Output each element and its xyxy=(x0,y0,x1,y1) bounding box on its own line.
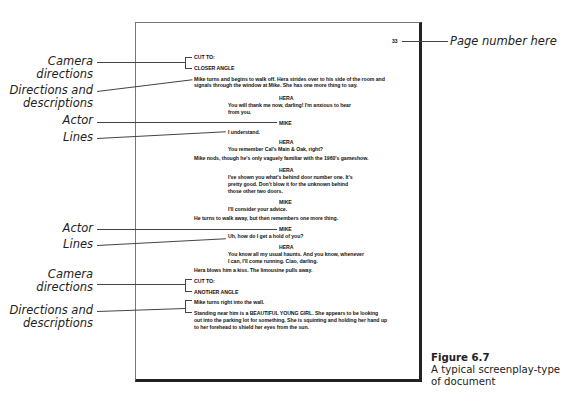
annotation-directions: Directions and descriptions xyxy=(3,304,93,330)
bracket-tick xyxy=(185,312,192,313)
direction-line: Mike turns right into the wall. xyxy=(194,299,264,305)
bracket xyxy=(185,57,186,68)
bracket xyxy=(185,300,186,312)
annotation-lines: Lines xyxy=(3,238,93,251)
actor-name: HERA xyxy=(279,244,294,250)
dialogue-line: those other two doors. xyxy=(228,188,283,194)
bracket-tick xyxy=(185,57,192,58)
dialogue-line: I'll consider your advice. xyxy=(228,206,287,212)
bracket xyxy=(185,279,186,291)
bracket-tick xyxy=(185,291,192,292)
leader-line xyxy=(402,41,448,42)
dialogue-line: You know all my usual haunts. And you kn… xyxy=(228,251,364,257)
actor-name: HERA xyxy=(279,95,294,101)
dialogue-line: Uh, how do I get a hold of you? xyxy=(228,233,303,239)
dialogue-line: I can, I'll come running. Ciao, darling. xyxy=(228,258,318,264)
direction-line: out into the parking lot for something. … xyxy=(194,317,387,323)
bracket-tick xyxy=(185,279,192,280)
actor-name: MIKE xyxy=(279,226,292,232)
camera-direction-cut: CUT TO: xyxy=(194,278,215,284)
annotation-actor: Actor xyxy=(3,114,93,127)
leader-line xyxy=(97,284,185,285)
direction-line: Standing near him is a BEAUTIFUL YOUNG G… xyxy=(194,310,378,316)
page-number: 33 xyxy=(392,38,397,44)
annotation-camera-directions: Camera directions xyxy=(3,55,93,81)
annotation-lines: Lines xyxy=(3,131,93,144)
leader-line xyxy=(97,62,185,63)
actor-name: MIKE xyxy=(279,120,292,126)
figure-number: Figure 6.7 xyxy=(431,352,560,364)
bracket-tick xyxy=(185,300,192,301)
figure-caption: Figure 6.7 A typical screenplay-type of … xyxy=(431,352,560,388)
bracket-tick xyxy=(185,68,192,69)
camera-direction-angle: CLOSER ANGLE xyxy=(194,65,234,71)
dialogue-line: from you. xyxy=(228,109,251,115)
dialogue-line: You will thank me now, darling! I'm anxi… xyxy=(228,102,351,108)
annotation-camera-directions: Camera directions xyxy=(3,268,93,294)
annotation-actor: Actor xyxy=(3,222,93,235)
dialogue-line: I've shown you what's behind door number… xyxy=(228,174,353,180)
annotation-page-number: Page number here xyxy=(450,34,557,48)
camera-direction-cut: CUT TO: xyxy=(194,54,215,60)
leader-line xyxy=(97,229,277,230)
dialogue-line: I understand. xyxy=(228,129,260,135)
actor-name: HERA xyxy=(279,139,294,145)
direction-line: Hera blows him a kiss. The limousine pul… xyxy=(194,267,312,273)
direction-line: He turns to walk away, but then remember… xyxy=(194,215,338,221)
direction-line: Mike nods, though he's only vaguely fami… xyxy=(194,155,368,161)
dialogue-line: You remember Cal's Main & Oak, right? xyxy=(228,146,323,152)
actor-name: MIKE xyxy=(279,199,292,205)
direction-line: signals through the window at Mike. She … xyxy=(194,82,358,88)
direction-line: to her forehead to shield her eyes from … xyxy=(194,324,309,330)
leader-line xyxy=(97,122,277,123)
annotation-directions: Directions and descriptions xyxy=(3,84,93,110)
actor-name: HERA xyxy=(279,167,294,173)
dialogue-line: pretty good. Don't blow it for the unkno… xyxy=(228,181,348,187)
camera-direction-angle: ANOTHER ANGLE xyxy=(194,289,238,295)
